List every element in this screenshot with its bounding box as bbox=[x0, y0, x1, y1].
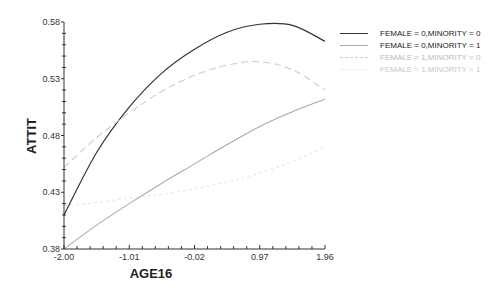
series-line bbox=[64, 23, 325, 215]
y-tick-label: 0.58 bbox=[42, 17, 60, 27]
legend-item: FEMALE = 1,MINORITY = 1 bbox=[340, 63, 480, 75]
legend-swatch bbox=[340, 69, 368, 70]
legend-item: FEMALE = 0,MINORITY = 1 bbox=[340, 39, 480, 51]
legend-swatch bbox=[340, 45, 368, 46]
x-axis-title: AGE16 bbox=[130, 266, 173, 281]
legend-label: FEMALE = 0,MINORITY = 1 bbox=[380, 41, 480, 50]
series-line bbox=[64, 99, 325, 249]
legend: FEMALE = 0,MINORITY = 0 FEMALE = 0,MINOR… bbox=[340, 27, 480, 75]
y-tick-label: 0.53 bbox=[42, 74, 60, 84]
legend-label: FEMALE = 1,MINORITY = 0 bbox=[380, 53, 480, 62]
x-tick-label: -0.02 bbox=[184, 252, 205, 262]
legend-label: FEMALE = 1,MINORITY = 1 bbox=[380, 65, 480, 74]
legend-swatch bbox=[340, 57, 368, 58]
x-tick-label: -2.00 bbox=[54, 252, 75, 262]
x-tick-label: 1.96 bbox=[316, 252, 334, 262]
x-tick-label: 0.97 bbox=[251, 252, 269, 262]
legend-item: FEMALE = 1,MINORITY = 0 bbox=[340, 51, 480, 63]
legend-item: FEMALE = 0,MINORITY = 0 bbox=[340, 27, 480, 39]
series-line bbox=[64, 147, 325, 206]
x-tick-label: -1.01 bbox=[119, 252, 140, 262]
y-axis-title: ATTIT bbox=[24, 118, 39, 154]
plot-lines bbox=[64, 23, 325, 249]
y-tick-label: 0.43 bbox=[42, 187, 60, 197]
legend-swatch bbox=[340, 33, 368, 34]
legend-label: FEMALE = 0,MINORITY = 0 bbox=[380, 29, 480, 38]
y-tick-label: 0.48 bbox=[42, 131, 60, 141]
